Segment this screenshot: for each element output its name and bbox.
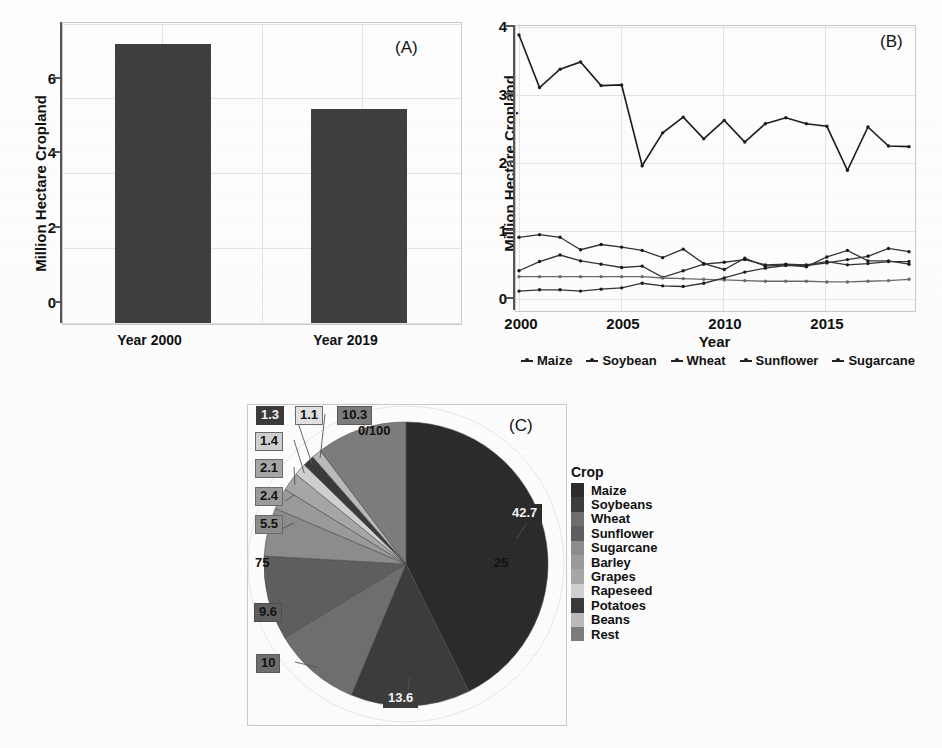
legend-item-soybean[interactable]: Soybean bbox=[586, 353, 656, 368]
series-point bbox=[620, 275, 623, 278]
series-point bbox=[723, 268, 726, 271]
series-point bbox=[887, 247, 890, 250]
series-point bbox=[517, 275, 520, 278]
series-point bbox=[887, 144, 890, 147]
legend-row-beans[interactable]: Beans bbox=[571, 613, 657, 627]
panel-a-y-axis-title: Million Hectare Cropland bbox=[32, 74, 49, 294]
line-marker-icon bbox=[832, 360, 844, 362]
series-point bbox=[825, 255, 828, 258]
series-point bbox=[743, 279, 746, 282]
pie-value-rapeseed: 1.4 bbox=[255, 432, 283, 451]
legend-row-rest[interactable]: Rest bbox=[571, 627, 657, 641]
legend-label-sugarcane: Sugarcane bbox=[848, 353, 914, 368]
series-point bbox=[682, 269, 685, 272]
legend-row-rapeseed[interactable]: Rapeseed bbox=[571, 584, 657, 598]
series-point bbox=[538, 233, 541, 236]
legend-name-rapeseed: Rapeseed bbox=[591, 584, 652, 597]
series-point bbox=[846, 280, 849, 283]
panel-a-xtick-year-2000: Year 2000 bbox=[62, 332, 237, 348]
legend-item-maize[interactable]: Maize bbox=[521, 353, 572, 368]
legend-row-sunflower[interactable]: Sunflower bbox=[571, 526, 657, 540]
series-point bbox=[538, 288, 541, 291]
pie-value-sunflower: 9.6 bbox=[254, 603, 282, 622]
series-point bbox=[784, 280, 787, 283]
series-point bbox=[579, 248, 582, 251]
panel-b-xtick-2010: 2010 bbox=[695, 315, 755, 332]
series-point bbox=[866, 280, 869, 283]
series-point bbox=[743, 270, 746, 273]
series-point bbox=[907, 250, 910, 253]
legend-label-sunflower: Sunflower bbox=[756, 353, 819, 368]
panel-a-bar-chart: Million Hectare Cropland 6 4 2 0 Year 20… bbox=[0, 0, 471, 374]
legend-name-grapes: Grapes bbox=[591, 570, 636, 583]
series-point bbox=[640, 264, 643, 267]
pie-value-maize: 42.7 bbox=[507, 504, 542, 523]
series-point bbox=[558, 236, 561, 239]
panel-b-xtick-2005: 2005 bbox=[593, 315, 653, 332]
legend-row-maize[interactable]: Maize bbox=[571, 483, 657, 497]
legend-swatch-potatoes bbox=[571, 598, 584, 612]
legend-name-wheat: Wheat bbox=[591, 512, 630, 525]
series-point bbox=[579, 259, 582, 262]
legend-row-sugarcane[interactable]: Sugarcane bbox=[571, 541, 657, 555]
pie-tick-75: 75 bbox=[255, 555, 269, 570]
series-point bbox=[517, 269, 520, 272]
series-point bbox=[517, 289, 520, 292]
series-point bbox=[846, 249, 849, 252]
series-point bbox=[764, 263, 767, 266]
legend-row-grapes[interactable]: Grapes bbox=[571, 569, 657, 583]
legend-row-potatoes[interactable]: Potatoes bbox=[571, 598, 657, 612]
legend-row-barley[interactable]: Barley bbox=[571, 555, 657, 569]
legend-swatch-soybeans bbox=[571, 497, 584, 511]
series-point bbox=[764, 280, 767, 283]
series-point bbox=[805, 264, 808, 267]
legend-name-potatoes: Potatoes bbox=[591, 599, 646, 612]
series-point bbox=[825, 261, 828, 264]
series-point bbox=[723, 261, 726, 264]
legend-swatch-grapes bbox=[571, 569, 584, 583]
series-point bbox=[538, 260, 541, 263]
legend-swatch-rapeseed bbox=[571, 584, 584, 598]
series-point bbox=[579, 60, 582, 63]
panel-b-x-axis-title: Year bbox=[515, 333, 914, 350]
series-point bbox=[743, 258, 746, 261]
series-point bbox=[846, 263, 849, 266]
series-point bbox=[723, 276, 726, 279]
series-point bbox=[805, 280, 808, 283]
series-point bbox=[620, 266, 623, 269]
panel-b-ytick-4: 4 bbox=[491, 18, 507, 35]
series-point bbox=[661, 276, 664, 279]
panel-b-xtick-2000: 2000 bbox=[491, 315, 551, 332]
series-point bbox=[538, 275, 541, 278]
series-point bbox=[866, 125, 869, 128]
bar-year-2000 bbox=[115, 44, 211, 323]
series-point bbox=[702, 278, 705, 281]
series-point bbox=[702, 282, 705, 285]
series-point bbox=[661, 131, 664, 134]
panel-b-series-canvas bbox=[516, 26, 915, 311]
legend-swatch-rest bbox=[571, 627, 584, 641]
series-point bbox=[702, 263, 705, 266]
series-point bbox=[599, 263, 602, 266]
pie-value-rest: 10.3 bbox=[337, 406, 372, 425]
legend-name-maize: Maize bbox=[591, 484, 626, 497]
series-point bbox=[538, 86, 541, 89]
series-point bbox=[517, 236, 520, 239]
legend-row-soybeans[interactable]: Soybeans bbox=[571, 497, 657, 511]
legend-swatch-sunflower bbox=[571, 526, 584, 540]
series-point bbox=[599, 275, 602, 278]
pie-value-barley: 2.4 bbox=[255, 487, 283, 506]
legend-row-wheat[interactable]: Wheat bbox=[571, 512, 657, 526]
series-point bbox=[599, 243, 602, 246]
panel-a-xtick-year-2019: Year 2019 bbox=[258, 332, 433, 348]
series-line-sugarcane bbox=[519, 248, 909, 291]
series-point bbox=[599, 287, 602, 290]
legend-name-beans: Beans bbox=[591, 613, 630, 626]
series-point bbox=[887, 260, 890, 263]
legend-item-sunflower[interactable]: Sunflower bbox=[740, 353, 819, 368]
series-point bbox=[599, 84, 602, 87]
legend-item-wheat[interactable]: Wheat bbox=[671, 353, 726, 368]
pie-value-grapes: 2.1 bbox=[255, 459, 283, 478]
series-point bbox=[702, 137, 705, 140]
legend-item-sugarcane[interactable]: Sugarcane bbox=[832, 353, 914, 368]
